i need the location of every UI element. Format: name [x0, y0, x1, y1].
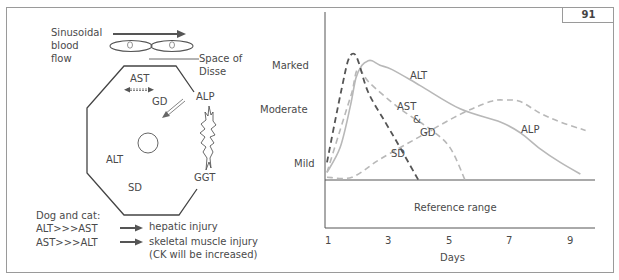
series-label-ampersand: &: [413, 114, 421, 126]
x-tick-1: 1: [325, 235, 331, 247]
series-label-gd: GD: [420, 127, 435, 139]
reference-range-label: Reference range: [414, 202, 497, 214]
x-tick-5: 5: [446, 235, 452, 247]
x-tick-7: 7: [506, 235, 512, 247]
y-level-label-moderate: Moderate: [260, 104, 308, 116]
series-line-sd: [327, 54, 418, 180]
series-label-alt: ALT: [410, 70, 427, 82]
y-level-label-mild: Mild: [294, 158, 315, 170]
x-axis-label: Days: [440, 252, 465, 264]
series-label-alp: ALP: [521, 124, 539, 136]
series-label-ast: AST: [397, 101, 416, 113]
series-label-sd: SD: [391, 148, 405, 160]
x-tick-9: 9: [567, 235, 573, 247]
series-line-alp: [327, 100, 586, 179]
enzyme-kinetics-chart: [0, 0, 619, 280]
x-tick-3: 3: [385, 235, 391, 247]
series-line-ast-gd: [327, 69, 465, 180]
y-level-label-marked: Marked: [272, 60, 309, 72]
